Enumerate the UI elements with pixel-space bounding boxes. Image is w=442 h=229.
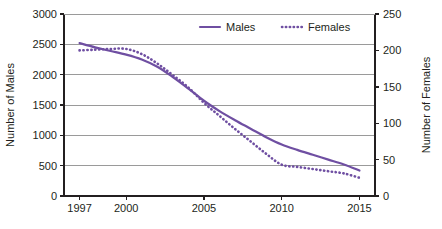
chart-container: 0500100015002000250030000501001502002501…	[0, 0, 442, 229]
series-line-males	[80, 43, 360, 170]
y-tick-label-right: 50	[383, 154, 395, 166]
legend-label-females: Females	[308, 21, 351, 33]
y-tick-label-right: 0	[383, 190, 389, 202]
x-tick-label: 2010	[269, 202, 293, 214]
x-tick-label: 2000	[114, 202, 138, 214]
x-tick-label: 2005	[192, 202, 216, 214]
y-tick-label-left: 3000	[33, 8, 57, 20]
y-tick-label-right: 150	[383, 81, 401, 93]
y-tick-label-right: 200	[383, 44, 401, 56]
y-tick-label-right: 250	[383, 8, 401, 20]
y-tick-label-left: 500	[39, 160, 57, 172]
x-tick-label: 1997	[67, 202, 91, 214]
y-axis-title-left: Number of Males	[4, 63, 16, 147]
series-line-females	[80, 49, 360, 178]
y-tick-label-left: 2500	[33, 38, 57, 50]
y-tick-label-left: 1500	[33, 99, 57, 111]
y-axis-title-right: Number of Females	[420, 56, 432, 153]
x-tick-label: 2015	[347, 202, 371, 214]
y-tick-label-right: 100	[383, 117, 401, 129]
y-tick-label-left: 0	[51, 190, 57, 202]
line-chart: 0500100015002000250030000501001502002501…	[0, 0, 442, 229]
legend-label-males: Males	[226, 21, 256, 33]
y-tick-label-left: 1000	[33, 129, 57, 141]
y-tick-label-left: 2000	[33, 69, 57, 81]
